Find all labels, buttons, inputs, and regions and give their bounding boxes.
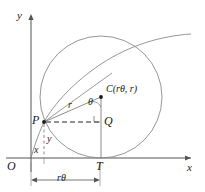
angle-theta-arc: [92, 102, 101, 108]
dimension-label-r-theta: rθ: [57, 173, 66, 183]
origin-label: O: [7, 160, 16, 172]
x-axis-arrow: [185, 155, 191, 160]
angle-label-theta: θ: [88, 97, 93, 107]
y-axis: [28, 14, 33, 172]
cycloid-curve: [31, 34, 191, 158]
point-marker-P: [42, 120, 46, 124]
point-label-Q: Q: [104, 115, 113, 127]
point-marker-C: [99, 95, 103, 99]
y-axis-arrow: [28, 14, 33, 20]
point-label-C: C(rθ, r): [106, 84, 137, 94]
cycloid-figure: y x O P Q T C(rθ, r) r θ y x rθ: [0, 0, 205, 192]
point-label-P: P: [32, 114, 39, 126]
x-axis-label: x: [187, 162, 192, 173]
segment-label-x: x: [34, 145, 38, 155]
segment-label-y: y: [47, 134, 51, 144]
segment-label-r: r: [68, 100, 72, 110]
y-axis-label: y: [17, 10, 22, 21]
point-label-T: T: [96, 160, 103, 172]
right-angle-marker: [94, 116, 100, 122]
